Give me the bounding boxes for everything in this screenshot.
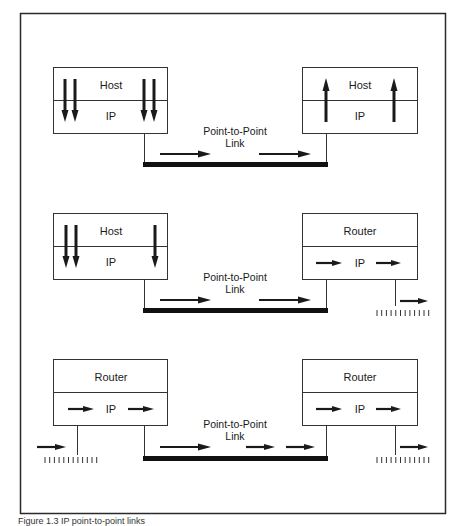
node-lower-label: IP bbox=[355, 257, 365, 269]
link-label-line1: Point-to-Point bbox=[203, 125, 267, 137]
inbound-network bbox=[37, 425, 97, 463]
node-lower-label: IP bbox=[106, 256, 116, 268]
left-router-node: Router IP bbox=[54, 360, 168, 426]
outbound-network bbox=[377, 425, 429, 463]
node-lower-label: IP bbox=[355, 403, 365, 415]
node-lower-label: IP bbox=[106, 110, 116, 122]
right-router-node: Router IP bbox=[303, 214, 418, 280]
right-arrow-icon bbox=[160, 444, 315, 451]
scenario-router-to-router: Router IP Router IP P bbox=[37, 360, 429, 464]
node-lower-label: IP bbox=[355, 110, 365, 122]
scenario-host-to-router: Host IP Router IP bbox=[54, 214, 429, 317]
left-host-node: Host IP bbox=[54, 214, 168, 280]
node-upper-label: Router bbox=[94, 371, 127, 383]
outbound-network bbox=[377, 279, 429, 316]
node-upper-label: Router bbox=[343, 225, 376, 237]
link-label-line2: Link bbox=[225, 137, 245, 149]
node-upper-label: Router bbox=[343, 371, 376, 383]
network-segment-ticks bbox=[377, 457, 429, 463]
network-segment-ticks bbox=[377, 310, 429, 316]
right-host-node: Host IP bbox=[303, 68, 418, 134]
right-arrow-icon bbox=[160, 297, 311, 304]
node-upper-label: Host bbox=[100, 225, 123, 237]
network-segment-ticks bbox=[45, 457, 97, 463]
node-upper-label: Host bbox=[100, 79, 123, 91]
left-host-node: Host IP bbox=[54, 68, 168, 134]
right-router-node: Router IP bbox=[303, 360, 418, 426]
node-lower-label: IP bbox=[106, 403, 116, 415]
node-upper-label: Host bbox=[349, 79, 372, 91]
link-label-line2: Link bbox=[225, 283, 245, 295]
right-arrow-icon bbox=[160, 151, 311, 158]
point-to-point-link: Point-to-Point Link bbox=[143, 125, 328, 167]
figure-caption: Figure 1.3 IP point-to-point links bbox=[18, 516, 145, 526]
point-to-point-link: Point-to-Point Link bbox=[143, 418, 328, 461]
scenario-host-to-host: Host IP Host IP bbox=[54, 68, 418, 168]
link-label-line1: Point-to-Point bbox=[203, 271, 267, 283]
link-label-line2: Link bbox=[225, 430, 245, 442]
point-to-point-link: Point-to-Point Link bbox=[143, 271, 328, 313]
link-label-line1: Point-to-Point bbox=[203, 418, 267, 430]
diagram-canvas: Host IP Host IP bbox=[0, 0, 462, 526]
